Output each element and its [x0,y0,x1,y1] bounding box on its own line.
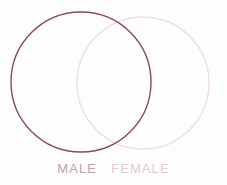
venn-legend: MALE FEMALE [0,161,227,181]
venn-label-female: FEMALE [111,161,170,177]
venn-diagram-figure: MALE FEMALE [0,0,227,185]
venn-diagram-canvas [0,0,227,185]
figure-background [0,0,227,185]
venn-label-male: MALE [57,161,97,177]
